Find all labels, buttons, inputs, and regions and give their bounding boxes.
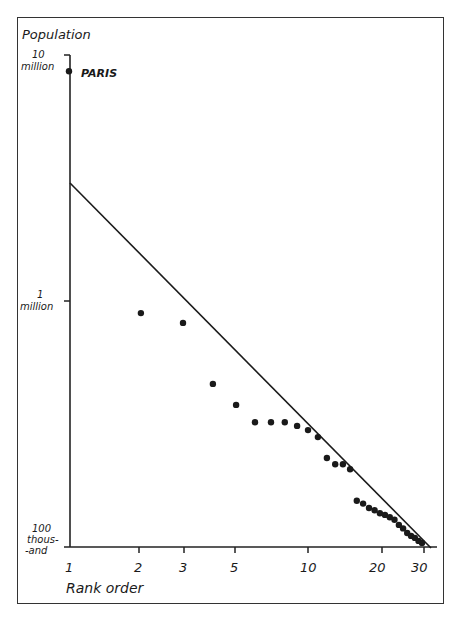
data-point [391,517,397,523]
data-points [66,68,425,546]
x-ticks [139,547,424,553]
svg-text:20: 20 [369,560,386,575]
data-point [233,402,239,408]
rank-size-line [70,183,431,548]
svg-text:30: 30 [411,560,428,575]
data-point [282,419,288,425]
rank-size-chart: Population 10 million 1 million 100 thou… [0,0,459,619]
data-point [360,500,366,506]
x-tick-labels: 1 2 3 5 10 20 30 [65,560,428,575]
data-point [315,434,321,440]
data-point [138,310,144,316]
data-point [419,540,425,546]
y-axis-title: Population [22,27,91,42]
svg-text:10: 10 [300,560,317,575]
data-point [324,455,330,461]
data-point [340,461,346,467]
svg-text:5: 5 [230,560,238,575]
y-tick-label-100k: 100 [32,523,51,534]
y-tick-label-10m: 10 [32,49,45,60]
svg-text:1: 1 [65,560,73,575]
y-tick-label-10m: million [21,61,54,72]
data-point [366,505,372,511]
data-point [268,419,274,425]
svg-text:3: 3 [179,560,187,575]
data-point [180,320,186,326]
data-point [66,68,72,74]
data-point [354,498,360,504]
x-axis-title: Rank order [66,580,145,596]
y-tick-label-1m: million [20,301,53,312]
y-tick-label-1m: 1 [37,289,43,300]
y-tick-label-100k: thous- [27,534,59,545]
data-point [332,461,338,467]
data-point [347,466,353,472]
paris-label: PARIS [81,67,117,80]
data-point [252,419,258,425]
data-point [210,381,216,387]
data-point [294,423,300,429]
svg-text:2: 2 [134,560,142,575]
y-tick-label-100k: -and [25,545,48,556]
data-point [305,427,311,433]
